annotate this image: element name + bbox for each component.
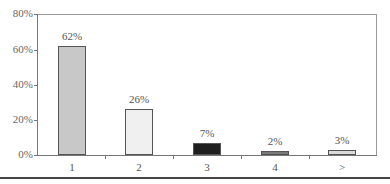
- bar: [328, 150, 356, 155]
- y-tick: [34, 14, 38, 15]
- y-tick-label: 60%: [0, 43, 33, 55]
- category-label: 2: [119, 161, 159, 173]
- y-tick-label: 20%: [0, 113, 33, 125]
- bar: [58, 46, 86, 155]
- y-tick-label: 80%: [0, 7, 33, 19]
- x-tick: [309, 155, 310, 159]
- y-tick-label: 0%: [0, 148, 33, 160]
- x-tick: [105, 155, 106, 159]
- category-label: >: [322, 161, 362, 173]
- bar-value-label: 2%: [255, 135, 295, 147]
- x-axis: [37, 155, 377, 156]
- bottom-divider: [0, 177, 390, 179]
- y-tick: [34, 50, 38, 51]
- y-tick: [34, 155, 38, 156]
- category-label: 4: [255, 161, 295, 173]
- y-tick-label: 40%: [0, 78, 33, 90]
- bar-value-label: 3%: [322, 134, 362, 146]
- category-label: 1: [52, 161, 92, 173]
- category-label: 3: [187, 161, 227, 173]
- bar-value-label: 26%: [119, 93, 159, 105]
- bar: [193, 143, 221, 155]
- bar: [125, 109, 153, 155]
- y-tick: [34, 120, 38, 121]
- bar: [261, 151, 289, 155]
- bar-value-label: 62%: [52, 30, 92, 42]
- bar-value-label: 7%: [187, 127, 227, 139]
- y-tick: [34, 85, 38, 86]
- x-tick: [241, 155, 242, 159]
- x-tick: [173, 155, 174, 159]
